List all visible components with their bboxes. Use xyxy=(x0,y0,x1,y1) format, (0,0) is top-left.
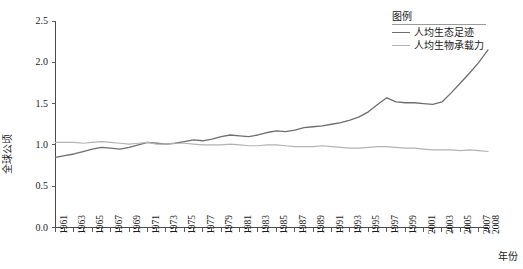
x-axis-tick-label: 2008 xyxy=(492,215,502,234)
x-axis-tick-label: 1995 xyxy=(372,215,382,234)
x-axis-tick-label: 1971 xyxy=(152,215,162,234)
series-line-biocapacity xyxy=(56,142,489,152)
legend-title: 图例 xyxy=(392,11,486,25)
legend-swatch-biocapacity xyxy=(392,45,410,46)
series-line-footprint xyxy=(56,50,489,157)
ecological-footprint-chart: 全球公顷 0.00.51.01.52.02.5 1961196319651967… xyxy=(0,0,523,269)
legend-item-footprint: 人均生态足迹 xyxy=(392,27,517,38)
y-axis-ticks xyxy=(52,21,56,228)
x-axis-tick-label: 1989 xyxy=(317,215,327,234)
x-axis-tick-label: 1975 xyxy=(188,215,198,234)
x-axis-tick-label: 1999 xyxy=(409,215,419,234)
x-axis-tick-label: 2001 xyxy=(428,215,438,234)
legend-swatch-footprint xyxy=(392,32,410,33)
y-axis-tick-label: 0.0 xyxy=(18,223,48,233)
legend-label-footprint: 人均生态足迹 xyxy=(414,27,474,38)
x-axis-tick-label: 1979 xyxy=(225,215,235,234)
x-axis-tick-label: 1997 xyxy=(391,215,401,234)
x-axis-tick-label: 1969 xyxy=(133,215,143,234)
chart-legend: 图例 人均生态足迹 人均生物承载力 xyxy=(392,6,517,51)
legend-label-biocapacity: 人均生物承载力 xyxy=(414,40,484,51)
x-axis-tick-label: 1985 xyxy=(280,215,290,234)
y-axis-tick-label: 2.5 xyxy=(18,16,48,26)
x-axis-tick-label: 1973 xyxy=(170,215,180,234)
y-axis-tick-label: 0.5 xyxy=(18,181,48,191)
x-axis-tick-label: 1977 xyxy=(207,215,217,234)
y-axis-tick-label: 1.0 xyxy=(18,140,48,150)
chart-series-lines xyxy=(56,50,489,157)
x-axis-tick-label: 2003 xyxy=(446,215,456,234)
x-axis-tick-label: 1981 xyxy=(244,215,254,234)
legend-item-biocapacity: 人均生物承载力 xyxy=(392,40,517,51)
x-axis-tick-label: 1987 xyxy=(299,215,309,234)
x-axis-tick-label: 1965 xyxy=(96,215,106,234)
y-axis-tick-label: 1.5 xyxy=(18,99,48,109)
x-axis-title: 年份 xyxy=(498,252,518,262)
x-axis-tick-label: 1991 xyxy=(336,215,346,234)
x-axis-tick-label: 1983 xyxy=(262,215,272,234)
x-axis-tick-label: 1967 xyxy=(115,215,125,234)
x-axis-tick-label: 2005 xyxy=(464,215,474,234)
x-axis-tick-label: 1961 xyxy=(60,215,70,234)
y-axis-tick-label: 2.0 xyxy=(18,57,48,67)
chart-axes xyxy=(56,21,489,228)
y-axis-title: 全球公顷 xyxy=(2,134,13,174)
x-axis-tick-label: 1993 xyxy=(354,215,364,234)
x-axis-tick-label: 1963 xyxy=(78,215,88,234)
